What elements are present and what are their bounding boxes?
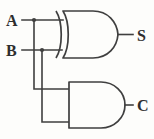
xor-gate-body — [63, 11, 118, 58]
junction-dot-b — [40, 48, 44, 52]
half-adder-circuit-diagram: A B S C — [0, 0, 154, 139]
wire-branch-b-to-and — [42, 50, 69, 122]
xor-gate-extra-arc — [56, 11, 61, 58]
junction-dot-a — [32, 18, 36, 22]
and-gate-body — [69, 82, 125, 128]
input-label-a: A — [6, 12, 18, 29]
wire-branch-a-to-and — [34, 20, 69, 89]
output-label-s: S — [137, 27, 146, 44]
output-label-c: C — [137, 97, 149, 114]
input-label-b: B — [6, 42, 17, 59]
circuit-canvas: A B S C — [0, 0, 154, 139]
